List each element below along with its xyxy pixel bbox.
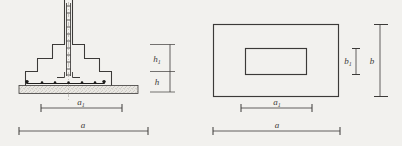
drawing-background <box>0 0 402 146</box>
dimension-label-b: b <box>370 56 375 66</box>
blinding-layer <box>19 86 138 94</box>
dimension-label-h: h <box>155 77 160 87</box>
engineering-drawing: h1 h a1 a b1 <box>0 0 402 146</box>
dimension-label-a-left: a <box>81 120 86 130</box>
dimension-label-a-right: a <box>275 120 280 130</box>
